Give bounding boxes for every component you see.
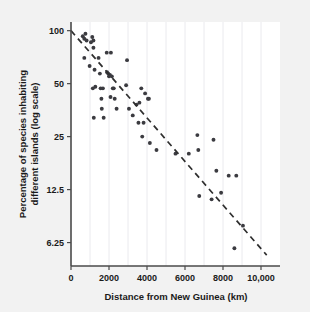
data-point	[91, 38, 95, 42]
y-tick-label: 12.5	[46, 185, 64, 195]
y-axis-ticks: 100502512.56.25	[46, 26, 71, 248]
data-point	[97, 56, 101, 60]
data-point	[155, 148, 159, 152]
y-tick-label: 6.25	[46, 238, 64, 248]
data-point	[91, 46, 95, 50]
data-point	[232, 246, 236, 250]
data-point	[90, 35, 94, 39]
x-tick-label: 4000	[137, 273, 157, 283]
data-point	[137, 121, 141, 125]
y-axis-label-line2: different islands (log scale)	[29, 83, 40, 206]
data-point	[131, 113, 135, 117]
y-tick-label: 50	[54, 79, 64, 89]
data-point	[124, 83, 128, 87]
x-tick-label: 6000	[175, 273, 195, 283]
data-point	[100, 107, 104, 111]
y-tick-label: 100	[49, 26, 64, 36]
scatter-plot: 100502512.56.25 0200040006000800010,000 …	[0, 0, 310, 312]
data-point	[110, 74, 114, 78]
data-point	[210, 197, 214, 201]
data-point	[241, 224, 245, 228]
y-axis-label-line1: Percentage of species inhabiting	[17, 70, 28, 219]
data-point	[109, 95, 113, 99]
data-point	[127, 107, 131, 111]
data-point	[91, 86, 95, 90]
x-tick-label: 0	[68, 273, 73, 283]
data-point	[101, 86, 105, 90]
data-point	[83, 32, 87, 36]
data-point	[140, 135, 144, 139]
plot-area-background	[71, 22, 280, 266]
data-point	[195, 133, 199, 137]
x-axis-ticks: 0200040006000800010,000	[68, 266, 274, 283]
figure-container: 100502512.56.25 0200040006000800010,000 …	[0, 0, 310, 312]
data-point	[212, 138, 216, 142]
data-point	[109, 51, 113, 55]
data-point	[197, 194, 201, 198]
y-tick-label: 25	[54, 132, 64, 142]
data-point	[102, 116, 106, 120]
x-tick-label: 8000	[213, 273, 233, 283]
data-point	[85, 38, 89, 42]
data-point	[227, 174, 231, 178]
x-tick-label: 2000	[99, 273, 119, 283]
data-point	[112, 86, 116, 90]
data-point	[115, 107, 119, 111]
data-point	[142, 121, 146, 125]
data-point	[88, 64, 92, 68]
data-point	[148, 141, 152, 145]
data-point	[219, 191, 223, 195]
data-point	[105, 51, 109, 55]
data-point	[196, 148, 200, 152]
data-point	[99, 97, 103, 101]
data-point	[234, 174, 238, 178]
data-point	[143, 91, 147, 95]
data-point	[93, 68, 97, 72]
data-point	[137, 101, 141, 105]
data-point	[113, 97, 117, 101]
data-point	[214, 169, 218, 173]
data-point	[139, 86, 143, 90]
data-point	[125, 58, 129, 62]
x-tick-label: 10,000	[247, 273, 275, 283]
data-point	[82, 56, 86, 60]
x-axis-label: Distance from New Guinea (km)	[104, 291, 247, 302]
data-point	[92, 116, 96, 120]
data-point	[98, 72, 102, 76]
chart-canvas: 100502512.56.25 0200040006000800010,000 …	[0, 0, 310, 312]
data-point	[187, 152, 191, 156]
data-point	[147, 97, 151, 101]
